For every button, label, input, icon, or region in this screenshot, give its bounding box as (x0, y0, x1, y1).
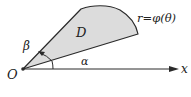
region-label: D (75, 25, 87, 40)
alpha-label: α (81, 55, 89, 68)
polar-region-diagram: O x D r=φ(θ) α β (0, 0, 191, 97)
origin-dot (21, 67, 25, 71)
curve-label: r=φ(θ) (137, 11, 176, 25)
alpha-arc (52, 61, 53, 69)
x-axis-arrowhead (169, 66, 179, 72)
origin-label: O (7, 67, 18, 82)
beta-label: β (22, 39, 30, 53)
x-axis-label: x (181, 62, 188, 76)
